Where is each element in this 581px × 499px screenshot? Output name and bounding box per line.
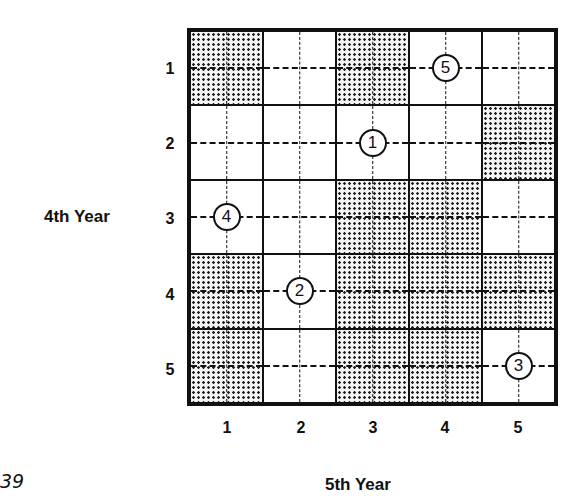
- grid-cell-r5-c4: [409, 329, 482, 403]
- dashed-vertical-line: [372, 330, 373, 402]
- circled-number-marker: 1: [359, 129, 387, 157]
- grid-cell-r5-c2: [263, 329, 336, 403]
- dashed-vertical-line: [445, 181, 446, 253]
- dashed-vertical-line: [372, 32, 373, 104]
- circled-number-marker: 2: [286, 277, 314, 305]
- grid-cell-r5-c3: [336, 329, 409, 403]
- col-label-2: 2: [264, 419, 338, 437]
- circled-number-marker: 4: [213, 203, 241, 231]
- grid-cell-r5-c1: [190, 329, 263, 403]
- dashed-vertical-line: [372, 181, 373, 253]
- dashed-vertical-line: [226, 32, 227, 104]
- row-label-2: 2: [160, 135, 180, 153]
- dashed-vertical-line: [299, 32, 300, 104]
- grid-cell-r1-c5: [482, 31, 555, 105]
- col-label-4: 4: [408, 419, 482, 437]
- dashed-vertical-line: [518, 181, 519, 253]
- row-label-1: 1: [160, 60, 180, 78]
- dashed-vertical-line: [518, 255, 519, 327]
- dashed-vertical-line: [299, 106, 300, 178]
- grid-cell-r4-c5: [482, 254, 555, 328]
- grid-cell-r1-c3: [336, 31, 409, 105]
- grid-cell-r4-c3: [336, 254, 409, 328]
- dashed-vertical-line: [445, 255, 446, 327]
- dashed-vertical-line: [299, 181, 300, 253]
- dashed-vertical-line: [445, 330, 446, 402]
- grid-cell-r3-c2: [263, 180, 336, 254]
- x-axis-label: 5th Year: [325, 475, 391, 495]
- grid-cell-r2-c3: 1: [336, 105, 409, 179]
- dashed-vertical-line: [518, 32, 519, 104]
- grid-cell-r4-c2: 2: [263, 254, 336, 328]
- grid-cell-r5-c5: 3: [482, 329, 555, 403]
- dashed-vertical-line: [518, 106, 519, 178]
- dashed-vertical-line: [226, 106, 227, 178]
- grid-cell-r1-c2: [263, 31, 336, 105]
- grid-cell-r3-c5: [482, 180, 555, 254]
- dashed-vertical-line: [299, 330, 300, 402]
- dashed-vertical-line: [445, 106, 446, 178]
- col-label-5: 5: [481, 419, 555, 437]
- grid-cell-r1-c4: 5: [409, 31, 482, 105]
- row-label-3: 3: [160, 210, 180, 228]
- row-label-4: 4: [160, 286, 180, 304]
- grid-cell-r3-c4: [409, 180, 482, 254]
- grid-cell-r3-c3: [336, 180, 409, 254]
- grid-cell-r2-c2: [263, 105, 336, 179]
- grid-cell-r3-c1: 4: [190, 180, 263, 254]
- dashed-vertical-line: [372, 255, 373, 327]
- grid-cell-r2-c5: [482, 105, 555, 179]
- col-label-1: 1: [190, 419, 264, 437]
- col-label-3: 3: [336, 419, 410, 437]
- circled-number-marker: 5: [432, 54, 460, 82]
- grid-cell-r2-c1: [190, 105, 263, 179]
- dashed-vertical-line: [226, 255, 227, 327]
- row-label-5: 5: [160, 361, 180, 379]
- grid-cell-r2-c4: [409, 105, 482, 179]
- grid-cell-r4-c1: [190, 254, 263, 328]
- page-number: 39: [0, 470, 24, 492]
- dashed-vertical-line: [226, 330, 227, 402]
- year-grid: 51423: [187, 28, 558, 406]
- grid-cell-r4-c4: [409, 254, 482, 328]
- grid-cell-r1-c1: [190, 31, 263, 105]
- y-axis-label: 4th Year: [44, 207, 110, 227]
- circled-number-marker: 3: [505, 352, 533, 380]
